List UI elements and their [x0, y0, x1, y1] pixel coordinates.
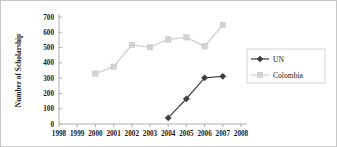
data-point-marker [166, 37, 171, 42]
y-tick-label: 700 [43, 14, 54, 22]
x-tick-label: 2007 [216, 130, 231, 138]
x-tick-label: 2004 [161, 130, 176, 138]
data-point-marker [202, 44, 207, 49]
x-tick-label: 2000 [88, 130, 103, 138]
legend-marker-swatch [257, 72, 262, 77]
legend-label: UN [273, 55, 284, 64]
line-chart: 0100200300400500600700 19981999200020012… [1, 1, 337, 147]
x-tick-label: 2002 [125, 130, 140, 138]
series-un [165, 73, 226, 121]
data-point-marker [147, 44, 152, 49]
y-tick-label: 600 [43, 29, 54, 37]
data-point-marker [184, 35, 189, 40]
y-axis-tick-marks [59, 17, 62, 124]
data-point-marker [220, 22, 225, 27]
y-tick-label: 200 [43, 90, 54, 98]
y-tick-label: 300 [43, 75, 54, 83]
y-axis-title: Number of Scholarship [14, 34, 23, 107]
data-point-marker [93, 71, 98, 76]
x-tick-label: 2001 [106, 130, 121, 138]
y-tick-label: 400 [43, 59, 54, 67]
data-point-marker [111, 64, 116, 69]
y-tick-label: 0 [50, 121, 54, 129]
y-axis-tick-labels: 0100200300400500600700 [43, 14, 54, 129]
x-tick-label: 1998 [52, 130, 67, 138]
legend-marker-swatch [257, 56, 263, 62]
series-colombia [93, 22, 226, 76]
x-tick-label: 2008 [234, 130, 249, 138]
chart-legend: UNColombia [247, 49, 325, 83]
x-tick-label: 2005 [179, 130, 194, 138]
x-axis-tick-marks [59, 124, 241, 127]
series-line [168, 76, 223, 118]
legend-label: Colombia [273, 71, 304, 80]
y-tick-label: 500 [43, 44, 54, 52]
chart-figure: 0100200300400500600700 19981999200020012… [0, 0, 337, 147]
data-point-marker [129, 42, 134, 47]
x-axis-tick-labels: 1998199920002001200220032004200520062007… [52, 130, 249, 138]
x-tick-label: 1999 [70, 130, 85, 138]
data-point-marker [220, 73, 226, 79]
x-tick-label: 2006 [197, 130, 212, 138]
y-tick-label: 100 [43, 105, 54, 113]
x-tick-label: 2003 [143, 130, 158, 138]
